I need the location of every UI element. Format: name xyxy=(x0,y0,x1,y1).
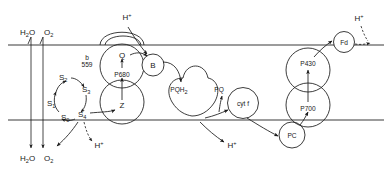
psii-extrinsic-dome xyxy=(100,32,144,45)
p680-label: P680 xyxy=(114,71,130,78)
h-plus-lumen-label: H+ xyxy=(227,140,236,150)
photosystem-ii-complex xyxy=(100,32,144,124)
plastocyanin-group xyxy=(279,112,308,148)
p430-label: P430 xyxy=(300,60,316,67)
pq-label: PQ xyxy=(214,86,224,94)
carrier-b-label: B xyxy=(150,61,155,70)
proton-labels: H+ H+ H+ H+ xyxy=(94,12,363,150)
cytf-to-pc-arrow xyxy=(247,118,278,136)
b559-top-label: b xyxy=(85,54,89,61)
cytochrome-f-group xyxy=(228,88,279,137)
water-oxygen-flux-arrows xyxy=(28,37,43,148)
b559-bottom-label: 559 xyxy=(81,61,92,68)
pool-to-cytf-arrow xyxy=(205,110,228,118)
b-to-pqh2-arrow xyxy=(163,62,181,82)
s0-to-s1-arrow xyxy=(54,92,59,112)
h2o-top-label: H2O xyxy=(20,28,35,38)
pq-proton-release-arrow xyxy=(200,122,224,142)
photosynthesis-diagram: H2O O2 H2O O2 S0 S1 S2 S3 S4 b 559 B cyt… xyxy=(0,0,392,171)
thylakoid-membrane-schematic: H2O O2 H2O O2 S0 S1 S2 S3 S4 b 559 B cyt… xyxy=(0,0,392,171)
pq-pool-left-arc xyxy=(169,78,192,116)
h-plus-oec-label: H+ xyxy=(94,140,103,150)
s0-label: S0 xyxy=(61,113,69,123)
q-label: Q xyxy=(119,51,125,60)
quinone-pool-labels: PQH2 PQ xyxy=(170,86,223,95)
proton-to-acceptor-dash xyxy=(361,26,368,41)
o2-arrowhead-up xyxy=(40,37,43,44)
p430-to-fd-arrow xyxy=(314,41,332,57)
s4-to-proton-arrow xyxy=(84,122,92,141)
z-label: Z xyxy=(120,101,125,110)
h-plus-stroma-label: H+ xyxy=(354,13,363,23)
h2o-arrowhead-up xyxy=(28,37,31,44)
pq-pool-top-arc xyxy=(183,66,208,78)
pqh2-oxidation-arrow xyxy=(219,96,222,112)
cyt-f-label: cyt f xyxy=(237,100,249,108)
pc-to-p700-arrow xyxy=(300,112,308,125)
plastoquinone-pool xyxy=(169,66,228,142)
water-oxygen-labels: H2O O2 H2O O2 xyxy=(20,28,53,164)
photosystem-i-complex xyxy=(286,41,332,127)
s2-label: S2 xyxy=(59,73,67,83)
pc-label: PC xyxy=(287,132,296,139)
p700-label: P700 xyxy=(300,105,316,112)
o2-bottom-label: O2 xyxy=(44,154,53,164)
fd-label: Fd xyxy=(340,39,348,46)
h-plus-psii-top-label: H+ xyxy=(122,12,131,22)
s4-to-o2-release-arrow xyxy=(57,122,78,146)
ferredoxin-group xyxy=(334,26,371,53)
o2-top-label: O2 xyxy=(44,28,53,38)
s-state-labels: S0 S1 S2 S3 S4 xyxy=(47,73,90,123)
fd-to-acceptor-arrow xyxy=(355,43,370,44)
s3-label: S3 xyxy=(82,85,90,95)
q-to-b-arrow xyxy=(130,53,147,56)
s4-label: S4 xyxy=(78,110,86,120)
h2o-bottom-label: H2O xyxy=(20,154,35,164)
pq-pool-right-arc xyxy=(192,78,218,116)
pqh2-label: PQH2 xyxy=(170,86,187,95)
